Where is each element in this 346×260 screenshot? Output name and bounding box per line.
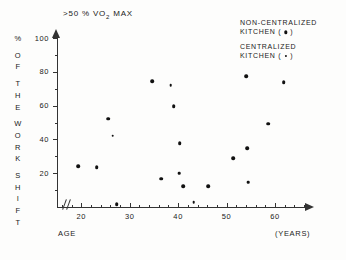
data-point-non-centralized xyxy=(181,185,185,189)
data-point-non-centralized xyxy=(178,141,182,145)
data-point-centralized xyxy=(178,172,181,175)
plot-area xyxy=(0,0,346,260)
data-point-non-centralized xyxy=(231,156,235,160)
data-point-non-centralized xyxy=(172,104,176,108)
data-point-non-centralized xyxy=(150,79,154,83)
data-point-non-centralized xyxy=(246,146,250,150)
data-point-non-centralized xyxy=(282,81,286,85)
data-point-centralized xyxy=(111,134,114,137)
data-point-non-centralized xyxy=(206,184,210,188)
scatter-chart-figure: >50 % VO2 MAX NON-CENTRALIZED KITCHEN ()… xyxy=(0,0,346,260)
data-point-non-centralized xyxy=(107,117,111,121)
data-point-non-centralized xyxy=(95,165,99,169)
data-point-centralized xyxy=(170,84,173,87)
data-point-non-centralized xyxy=(159,177,163,181)
data-point-non-centralized xyxy=(77,164,81,168)
data-point-centralized xyxy=(247,181,250,184)
data-point-non-centralized xyxy=(115,203,119,207)
data-point-non-centralized xyxy=(266,122,270,126)
data-point-centralized xyxy=(192,201,195,204)
data-point-non-centralized xyxy=(244,74,248,78)
